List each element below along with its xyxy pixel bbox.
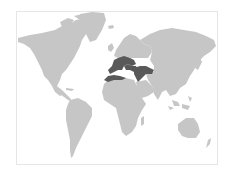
australia bbox=[178, 118, 200, 138]
greenland bbox=[80, 12, 106, 42]
british-isles bbox=[108, 43, 114, 52]
new-zealand bbox=[206, 138, 211, 148]
land-masses bbox=[18, 12, 216, 158]
iceland bbox=[108, 25, 114, 29]
madagascar bbox=[141, 116, 144, 126]
southeast-asia-islands bbox=[168, 96, 192, 110]
world-map bbox=[0, 0, 235, 177]
caribbean bbox=[66, 88, 74, 91]
highlighted-region bbox=[104, 56, 154, 82]
highlight-europe bbox=[108, 56, 136, 74]
south-america bbox=[66, 98, 92, 158]
